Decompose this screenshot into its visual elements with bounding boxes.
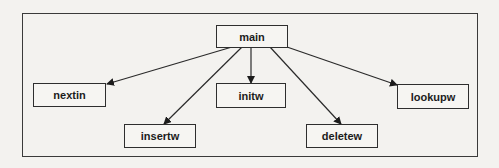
node-lookupw-label: lookupw	[411, 91, 456, 103]
node-initw: initw	[216, 83, 286, 108]
edge-main-lookupw	[287, 47, 397, 85]
node-deletew-label: deletew	[322, 130, 362, 142]
node-insertw: insertw	[124, 124, 196, 148]
edge-main-nextin	[107, 47, 232, 84]
node-initw-label: initw	[238, 90, 263, 102]
node-main: main	[216, 25, 288, 48]
node-insertw-label: insertw	[141, 130, 180, 142]
node-nextin-label: nextin	[53, 89, 85, 101]
node-lookupw: lookupw	[397, 84, 469, 109]
node-deletew: deletew	[306, 124, 378, 148]
node-nextin: nextin	[33, 83, 106, 107]
node-main-label: main	[239, 31, 265, 43]
